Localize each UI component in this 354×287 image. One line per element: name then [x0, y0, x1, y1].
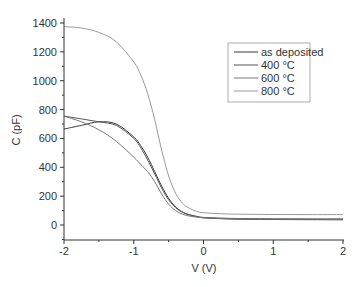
- legend-label: 600 °C: [261, 72, 295, 84]
- legend-label: 400 °C: [261, 59, 295, 71]
- cv-chart: 0200400600800100012001400 -2-1012 V (V) …: [0, 0, 354, 287]
- series-line-as-deposited: [64, 122, 343, 220]
- y-tick-label: 800: [39, 104, 57, 116]
- series-line-400-c: [64, 116, 343, 219]
- chart-canvas: 0200400600800100012001400 -2-1012 V (V) …: [0, 0, 354, 287]
- legend-label: as deposited: [261, 46, 323, 58]
- x-tick-label: 1: [270, 245, 276, 257]
- y-tick-label: 0: [51, 219, 57, 231]
- x-tick-label: -1: [129, 245, 139, 257]
- legend: as deposited400 °C600 °C800 °C: [228, 43, 323, 102]
- legend-label: 800 °C: [261, 85, 295, 97]
- y-tick-label: 1000: [33, 75, 57, 87]
- y-tick-label: 400: [39, 161, 57, 173]
- y-axis-label: C (pF): [10, 114, 22, 145]
- y-tick-label: 1400: [33, 17, 57, 29]
- y-tick-label: 1200: [33, 46, 57, 58]
- x-tick-label: 0: [200, 245, 206, 257]
- y-ticks: 0200400600800100012001400: [33, 17, 64, 239]
- y-tick-label: 600: [39, 132, 57, 144]
- x-ticks: -2-1012: [59, 240, 346, 257]
- y-tick-label: 200: [39, 190, 57, 202]
- x-axis-label: V (V): [191, 262, 216, 274]
- series-line-600-c: [64, 116, 343, 219]
- x-tick-label: -2: [59, 245, 69, 257]
- x-tick-label: 2: [340, 245, 346, 257]
